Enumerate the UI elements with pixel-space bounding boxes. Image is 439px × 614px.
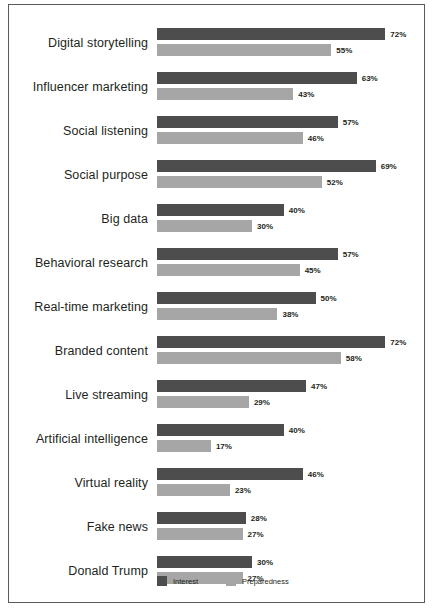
bar-value-label: 30% [257,222,273,231]
category-label: Donald Trump [9,549,148,593]
bar-value-label: 17% [216,442,232,451]
category-label: Live streaming [9,373,148,417]
bar-value-label: 52% [327,178,343,187]
bar-interest [157,204,284,216]
bar-value-label: 55% [336,46,352,55]
bar-row: Virtual reality46%23% [9,461,424,505]
bar-value-label: 69% [381,162,397,171]
bar-track-interest: 72% [157,28,424,40]
bar-row: Influencer marketing63%43% [9,65,424,109]
bar-interest [157,336,385,348]
category-label: Behavioral research [9,241,148,285]
legend-swatch-icon [226,576,236,586]
bar-track-preparedness: 55% [157,44,424,56]
bar-preparedness [157,528,243,540]
bar-track-interest: 63% [157,72,424,84]
bar-interest [157,72,357,84]
category-label: Real-time marketing [9,285,148,329]
bar-track-preparedness: 52% [157,176,424,188]
bar-value-label: 57% [343,250,359,259]
bar-interest [157,556,252,568]
bar-preparedness [157,132,303,144]
bar-preparedness [157,264,300,276]
category-label: Virtual reality [9,461,148,505]
bar-track-preparedness: 43% [157,88,424,100]
bar-preparedness [157,220,252,232]
bar-track-preparedness: 45% [157,264,424,276]
bar-row: Branded content72%58% [9,329,424,373]
bar-pair: 40%17% [157,417,424,461]
bar-pair: 28%27% [157,505,424,549]
bar-interest [157,512,246,524]
bar-track-interest: 47% [157,380,424,392]
bar-pair: 72%58% [157,329,424,373]
bar-track-interest: 28% [157,512,424,524]
bar-value-label: 50% [321,294,337,303]
category-label: Artificial intelligence [9,417,148,461]
bar-pair: 72%55% [157,21,424,65]
bar-preparedness [157,176,322,188]
legend-label: Preparedness [242,577,289,586]
bar-interest [157,160,376,172]
bar-preparedness [157,396,249,408]
category-label: Fake news [9,505,148,549]
bar-track-preparedness: 17% [157,440,424,452]
bar-preparedness [157,44,331,56]
bar-track-interest: 57% [157,248,424,260]
bar-interest [157,116,338,128]
bar-row: Live streaming47%29% [9,373,424,417]
bar-preparedness [157,352,341,364]
category-label: Big data [9,197,148,241]
chart-frame: Digital storytelling72%55%Influencer mar… [8,4,425,603]
bar-value-label: 23% [235,486,251,495]
chart-legend: InterestPreparedness [157,573,317,589]
bar-chart-plot-area: Digital storytelling72%55%Influencer mar… [9,5,424,602]
bar-track-interest: 40% [157,424,424,436]
legend-label: Interest [173,577,198,586]
bar-pair: 57%45% [157,241,424,285]
bar-interest [157,468,303,480]
bar-value-label: 38% [282,310,298,319]
bar-pair: 46%23% [157,461,424,505]
bar-preparedness [157,88,293,100]
bar-value-label: 40% [289,426,305,435]
bar-preparedness [157,308,277,320]
bar-track-preparedness: 30% [157,220,424,232]
legend-item-preparedness[interactable]: Preparedness [226,576,289,586]
bar-track-preparedness: 23% [157,484,424,496]
bar-value-label: 46% [308,134,324,143]
bar-row: Fake news28%27% [9,505,424,549]
legend-item-interest[interactable]: Interest [157,576,198,586]
bar-interest [157,424,284,436]
bar-preparedness [157,484,230,496]
bar-row: Big data40%30% [9,197,424,241]
bar-row: Artificial intelligence40%17% [9,417,424,461]
bar-track-interest: 50% [157,292,424,304]
category-label: Social purpose [9,153,148,197]
bar-value-label: 47% [311,382,327,391]
bar-row: Social purpose69%52% [9,153,424,197]
bar-track-interest: 30% [157,556,424,568]
bar-track-preparedness: 58% [157,352,424,364]
bar-track-interest: 40% [157,204,424,216]
bar-pair: 69%52% [157,153,424,197]
category-label: Influencer marketing [9,65,148,109]
bar-interest [157,380,306,392]
bar-value-label: 45% [305,266,321,275]
bar-pair: 50%38% [157,285,424,329]
bar-value-label: 29% [254,398,270,407]
bar-row: Real-time marketing50%38% [9,285,424,329]
bar-track-interest: 46% [157,468,424,480]
bar-track-interest: 57% [157,116,424,128]
bar-row: Behavioral research57%45% [9,241,424,285]
category-label: Social listening [9,109,148,153]
bar-pair: 63%43% [157,65,424,109]
bar-row: Digital storytelling72%55% [9,21,424,65]
bar-value-label: 72% [390,30,406,39]
bar-pair: 57%46% [157,109,424,153]
bar-value-label: 46% [308,470,324,479]
bar-preparedness [157,440,211,452]
bar-track-preparedness: 29% [157,396,424,408]
bar-pair: 40%30% [157,197,424,241]
bar-value-label: 63% [362,74,378,83]
